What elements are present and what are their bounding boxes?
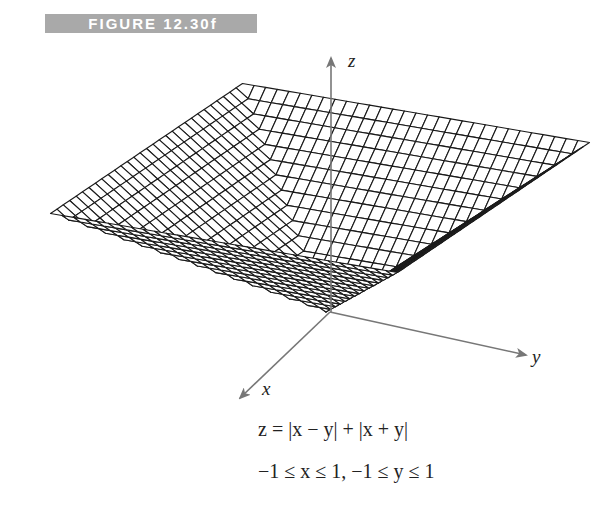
z-axis-label: z	[348, 50, 355, 72]
domain-text: −1 ≤ x ≤ 1, −1 ≤ y ≤ 1	[258, 460, 434, 483]
y-axis	[330, 312, 526, 355]
axes-group	[240, 312, 526, 398]
y-axis-label: y	[532, 346, 540, 368]
wireframe-mesh	[51, 84, 590, 313]
x-axis-label: x	[262, 378, 270, 400]
x-axis	[240, 312, 330, 398]
equation-text: z = |x − y| + |x + y|	[258, 418, 408, 441]
